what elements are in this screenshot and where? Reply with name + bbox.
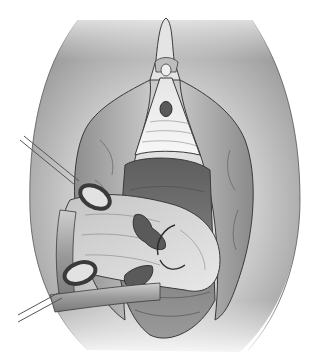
illustration-canvas: [0, 0, 316, 359]
surgical-illustration: [0, 0, 316, 359]
central-mark: [160, 102, 172, 117]
